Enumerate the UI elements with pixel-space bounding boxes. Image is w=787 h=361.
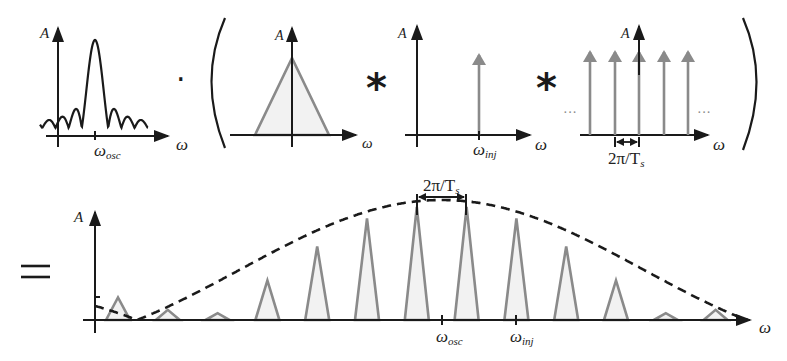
y-axis-label: A (73, 209, 84, 225)
inj-tick-label: ωinj (510, 327, 534, 347)
x-axis-label: ω (759, 318, 771, 337)
sideband-triangle (305, 247, 329, 320)
osc-tick-label: ωosc (436, 327, 463, 347)
convolution-operator-1: * (366, 65, 387, 111)
x-axis-label: ω (176, 135, 188, 154)
spacing-label: 2π/Ts (608, 149, 644, 169)
spectrum-diagram: A ω ωosc · A ω * A ω ωinj * A ω ··· ··· … (0, 0, 787, 361)
y-axis-label: A (397, 26, 407, 41)
sideband-triangle (554, 247, 578, 320)
sideband-triangle (206, 313, 230, 320)
result-panel: 2π/Ts A ω ωosc ωinj (73, 176, 771, 347)
sideband-triangle (654, 313, 678, 320)
comb-panel: A ω ··· ··· 2π/Ts (563, 26, 725, 169)
equals-operator (21, 266, 50, 277)
impulse-panel: A ω ωinj (397, 26, 547, 160)
sideband-triangle (255, 280, 279, 320)
sinc-spectrum-panel: A ω ωosc (39, 25, 188, 161)
left-ellipsis: ··· (563, 105, 577, 120)
open-parenthesis (212, 18, 226, 148)
sideband-triangle (455, 207, 479, 320)
x-axis-label: ω (713, 135, 725, 154)
sideband-triangle (355, 218, 379, 320)
x-axis-label: ω (362, 135, 373, 151)
right-ellipsis: ··· (697, 105, 711, 120)
inj-tick-label: ωinj (473, 140, 497, 160)
triangle-panel: A ω (230, 28, 373, 151)
sideband-triangle (405, 207, 429, 320)
y-axis-label: A (274, 28, 284, 43)
y-axis-label: A (39, 25, 50, 41)
sideband-triangle (504, 218, 528, 320)
sideband-triangle (604, 280, 628, 320)
y-axis-label: A (620, 26, 630, 41)
x-axis-label: ω (535, 135, 547, 154)
close-parenthesis (743, 18, 757, 150)
sinc-curve (40, 40, 148, 128)
convolution-operator-2: * (536, 65, 557, 111)
multiply-operator: · (176, 62, 186, 97)
spacing-label: 2π/Ts (423, 176, 459, 196)
result-sidebands (106, 207, 728, 320)
osc-tick-label: ωosc (94, 141, 121, 161)
